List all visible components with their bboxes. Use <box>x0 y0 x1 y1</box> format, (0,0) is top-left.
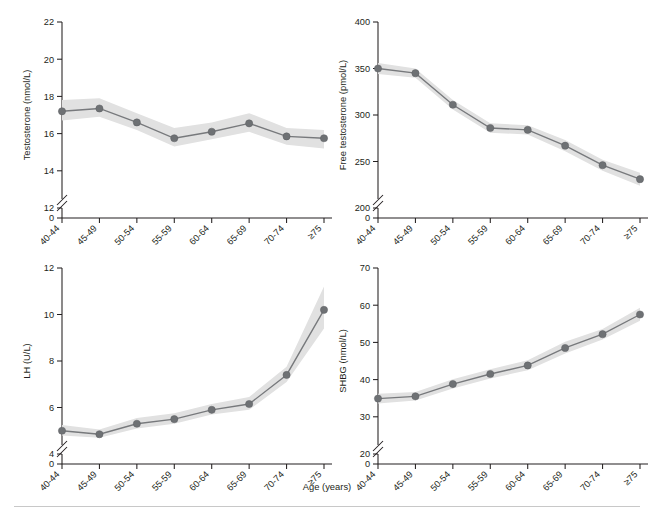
y-tick-label-lh-5: 12 <box>44 263 54 273</box>
y-tick-label-testosterone-0: 0 <box>49 213 54 223</box>
y-tick-label-shbg-5: 60 <box>360 301 370 311</box>
x-tick-label-testosterone-5: 65-69 <box>225 223 249 247</box>
data-point-shbg-1 <box>412 393 419 400</box>
chart-panel-free-testosterone: 020025030035040040-4445-4950-5455-5960-6… <box>330 6 648 258</box>
y-axis-title-shbg: SHBG (nmol/L) <box>337 329 348 393</box>
data-point-free-testosterone-2 <box>449 101 456 108</box>
data-point-shbg-0 <box>374 395 381 402</box>
y-tick-label-free-testosterone-2: 250 <box>355 157 370 167</box>
data-point-testosterone-3 <box>171 135 178 142</box>
x-tick-label-free-testosterone-0: 40-44 <box>354 223 378 247</box>
y-tick-label-shbg-4: 50 <box>360 338 370 348</box>
data-point-free-testosterone-3 <box>487 124 494 131</box>
y-tick-label-testosterone-2: 14 <box>44 166 54 176</box>
y-tick-label-free-testosterone-4: 350 <box>355 64 370 74</box>
data-point-lh-7 <box>320 306 327 313</box>
chart-svg-testosterone: 012141618202240-4445-4950-5455-5960-6465… <box>14 6 332 258</box>
y-tick-label-shbg-0: 0 <box>365 459 370 469</box>
data-point-shbg-5 <box>562 344 569 351</box>
data-point-testosterone-4 <box>208 128 215 135</box>
x-tick-label-free-testosterone-3: 55-59 <box>466 223 490 247</box>
y-tick-label-testosterone-3: 16 <box>44 129 54 139</box>
data-point-lh-2 <box>133 420 140 427</box>
y-tick-label-free-testosterone-5: 400 <box>355 17 370 27</box>
chart-panel-testosterone: 012141618202240-4445-4950-5455-5960-6465… <box>14 6 332 258</box>
data-point-lh-0 <box>58 427 65 434</box>
confidence-band-shbg <box>378 308 640 404</box>
data-point-lh-6 <box>283 371 290 378</box>
y-tick-label-shbg-2: 30 <box>360 412 370 422</box>
footer-divider <box>14 506 640 507</box>
x-tick-label-testosterone-2: 50-54 <box>113 223 137 247</box>
figure-x-axis-label: Age (years) <box>0 481 654 492</box>
data-point-testosterone-6 <box>283 133 290 140</box>
data-point-shbg-6 <box>599 331 606 338</box>
chart-svg-free-testosterone: 020025030035040040-4445-4950-5455-5960-6… <box>330 6 648 258</box>
data-point-free-testosterone-7 <box>636 176 643 183</box>
y-tick-label-shbg-6: 70 <box>360 263 370 273</box>
x-tick-label-testosterone-7: ≥75 <box>306 223 324 241</box>
data-point-free-testosterone-1 <box>412 70 419 77</box>
data-point-free-testosterone-0 <box>374 65 381 72</box>
y-tick-label-shbg-1: 20 <box>360 449 370 459</box>
data-point-free-testosterone-5 <box>562 142 569 149</box>
chart-svg-shbg: 020304050607040-4445-4950-5455-5960-6465… <box>330 252 648 504</box>
data-point-shbg-3 <box>487 370 494 377</box>
data-point-testosterone-2 <box>133 119 140 126</box>
data-point-lh-1 <box>96 431 103 438</box>
x-tick-label-free-testosterone-7: ≥75 <box>622 223 640 241</box>
data-point-free-testosterone-4 <box>524 126 531 133</box>
y-tick-label-testosterone-1: 12 <box>44 203 54 213</box>
y-tick-label-testosterone-4: 18 <box>44 92 54 102</box>
data-point-shbg-2 <box>449 380 456 387</box>
y-tick-label-lh-2: 6 <box>49 403 54 413</box>
x-tick-label-testosterone-1: 45-49 <box>75 223 99 247</box>
data-point-testosterone-0 <box>58 108 65 115</box>
chart-svg-lh: 0468101240-4445-4950-5455-5960-6465-6970… <box>14 252 332 504</box>
data-point-shbg-7 <box>636 311 643 318</box>
x-tick-label-free-testosterone-1: 45-49 <box>391 223 415 247</box>
data-point-shbg-4 <box>524 362 531 369</box>
x-tick-label-testosterone-4: 60-64 <box>187 223 211 247</box>
y-tick-label-free-testosterone-3: 300 <box>355 110 370 120</box>
x-tick-label-free-testosterone-5: 65-69 <box>541 223 565 247</box>
chart-panel-lh: 0468101240-4445-4950-5455-5960-6465-6970… <box>14 252 332 504</box>
data-point-lh-3 <box>171 416 178 423</box>
y-axis-title-testosterone: Testosterone (nmol/L) <box>21 70 32 161</box>
y-tick-label-lh-3: 8 <box>49 356 54 366</box>
y-tick-label-lh-1: 4 <box>49 449 54 459</box>
y-axis-title-free-testosterone: Free testosterone (pmol/L) <box>337 60 348 170</box>
x-tick-label-free-testosterone-6: 70-74 <box>578 223 602 247</box>
y-tick-label-lh-4: 10 <box>44 310 54 320</box>
x-tick-label-testosterone-6: 70-74 <box>262 223 286 247</box>
y-tick-label-lh-0: 0 <box>49 459 54 469</box>
data-point-testosterone-7 <box>320 135 327 142</box>
y-axis-title-lh: LH (U/L) <box>21 343 32 378</box>
data-point-free-testosterone-6 <box>599 162 606 169</box>
series-line-shbg <box>378 315 640 399</box>
x-tick-label-free-testosterone-2: 50-54 <box>429 223 453 247</box>
x-tick-label-testosterone-0: 40-44 <box>38 223 62 247</box>
x-tick-label-free-testosterone-4: 60-64 <box>503 223 527 247</box>
y-tick-label-testosterone-6: 22 <box>44 17 54 27</box>
data-point-lh-4 <box>208 406 215 413</box>
data-point-lh-5 <box>246 400 253 407</box>
y-tick-label-testosterone-5: 20 <box>44 55 54 65</box>
y-tick-label-shbg-3: 40 <box>360 375 370 385</box>
data-point-testosterone-1 <box>96 105 103 112</box>
data-point-testosterone-5 <box>246 120 253 127</box>
chart-panel-shbg: 020304050607040-4445-4950-5455-5960-6465… <box>330 252 648 504</box>
figure-multi-panel-line-charts: 012141618202240-4445-4950-5455-5960-6465… <box>0 0 654 516</box>
x-tick-label-testosterone-3: 55-59 <box>150 223 174 247</box>
y-tick-label-free-testosterone-0: 0 <box>365 213 370 223</box>
y-tick-label-free-testosterone-1: 200 <box>355 203 370 213</box>
